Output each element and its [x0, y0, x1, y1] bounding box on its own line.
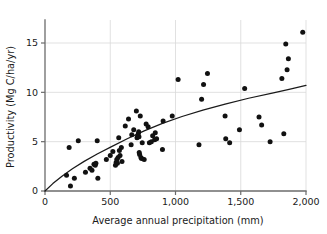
data-point	[161, 118, 166, 123]
x-axis-title: Average annual precipitation (mm)	[92, 215, 263, 226]
x-tick-label: 1,000	[162, 196, 189, 207]
data-point	[134, 109, 139, 114]
y-tick-label: 10	[26, 87, 38, 98]
data-point	[237, 127, 242, 132]
data-point	[199, 97, 204, 102]
data-point	[95, 138, 100, 143]
data-point	[223, 114, 228, 119]
data-point	[285, 67, 290, 72]
y-tick-labels: 051015	[26, 37, 38, 196]
data-point	[136, 134, 141, 139]
data-point	[281, 131, 286, 136]
data-point	[131, 127, 136, 132]
data-point	[196, 142, 201, 147]
data-point	[129, 142, 134, 147]
data-point	[201, 82, 206, 87]
data-point	[123, 123, 128, 128]
data-point	[140, 140, 145, 145]
data-point	[110, 149, 115, 154]
data-point	[160, 147, 165, 152]
data-point	[104, 157, 109, 162]
data-point	[279, 76, 284, 81]
data-point	[283, 41, 288, 46]
chart-figure: 05001,0001,5002,000 051015 Average annua…	[0, 0, 327, 234]
x-tick-label: 0	[42, 196, 48, 207]
data-point	[118, 153, 123, 158]
data-point	[170, 114, 175, 119]
scatter-plot: 05001,0001,5002,000 051015 Average annua…	[0, 0, 327, 234]
data-point	[242, 86, 247, 91]
data-point	[153, 130, 158, 135]
data-point	[146, 124, 151, 129]
x-gridlines	[110, 20, 306, 191]
data-point	[72, 176, 77, 181]
x-tick-label: 500	[101, 196, 119, 207]
y-axis-title: Productivity (Mg C/ha/yr)	[5, 46, 16, 168]
data-point	[205, 71, 210, 76]
data-point	[154, 136, 159, 141]
x-tick-label: 2,000	[292, 196, 319, 207]
data-point	[76, 138, 81, 143]
data-point	[115, 161, 120, 166]
y-tick-label: 5	[32, 136, 38, 147]
data-point	[116, 135, 121, 140]
data-point	[227, 140, 232, 145]
data-point	[223, 136, 228, 141]
data-point	[119, 145, 124, 150]
data-point	[176, 77, 181, 82]
y-tick-label: 0	[32, 185, 38, 196]
x-tick-labels: 05001,0001,5002,000	[42, 196, 320, 207]
data-point	[68, 184, 73, 189]
data-point	[268, 139, 273, 144]
y-tick-label: 15	[26, 37, 38, 48]
data-point	[95, 176, 100, 181]
data-points	[64, 30, 305, 189]
data-point	[93, 161, 98, 166]
data-point	[138, 114, 143, 119]
data-point	[83, 170, 88, 175]
data-point	[300, 30, 305, 35]
data-point	[67, 145, 72, 150]
data-point	[64, 173, 69, 178]
data-point	[257, 115, 262, 120]
data-point	[89, 168, 94, 173]
data-point	[286, 56, 291, 61]
data-point	[136, 129, 141, 134]
data-point	[129, 132, 134, 137]
data-point	[126, 116, 131, 121]
data-point	[259, 122, 264, 127]
data-point	[119, 159, 124, 164]
data-point	[142, 157, 147, 162]
x-tick-label: 1,500	[227, 196, 254, 207]
